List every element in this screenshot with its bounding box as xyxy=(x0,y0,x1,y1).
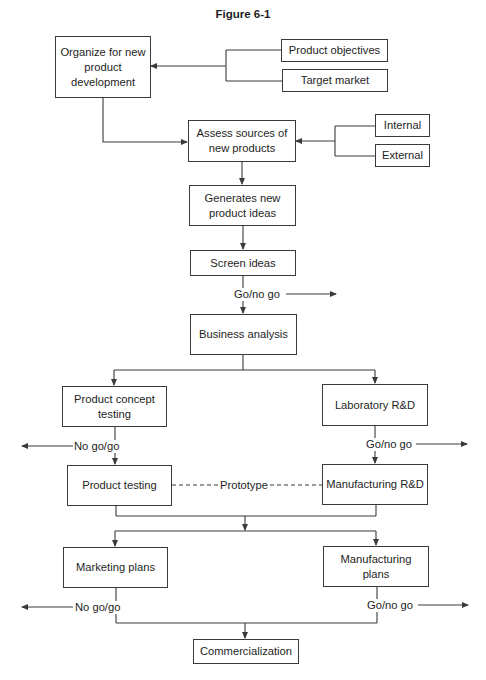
node-concept-testing: Product concept testing xyxy=(62,386,167,427)
label-manufacturing-decision: Go/no go xyxy=(366,599,414,612)
node-internal: Internal xyxy=(375,114,430,137)
node-business-analysis: Business analysis xyxy=(190,314,297,355)
node-target-market: Target market xyxy=(282,69,388,92)
node-product-testing: Product testing xyxy=(67,465,172,506)
node-external: External xyxy=(375,144,430,167)
node-screen-ideas: Screen ideas xyxy=(190,250,296,276)
node-commercialization: Commercialization xyxy=(193,639,299,664)
label-marketing-decision: No go/go xyxy=(74,601,121,614)
node-generate-ideas: Generates new product ideas xyxy=(189,185,296,226)
label-concept-decision: No go/go xyxy=(73,440,120,453)
node-organize: Organize for new product development xyxy=(55,36,151,98)
label-screen-decision: Go/no go xyxy=(233,288,281,301)
node-manufacturing-rd: Manufacturing R&D xyxy=(322,464,428,505)
label-lab-decision: Go/no go xyxy=(365,438,413,451)
node-assess-sources: Assess sources of new products xyxy=(188,120,296,162)
label-prototype: Prototype xyxy=(219,479,269,492)
node-marketing-plans: Marketing plans xyxy=(63,547,168,588)
node-lab-rd: Laboratory R&D xyxy=(322,384,428,426)
node-product-objectives: Product objectives xyxy=(281,39,388,62)
node-manufacturing-plans: Manufacturing plans xyxy=(323,546,429,587)
